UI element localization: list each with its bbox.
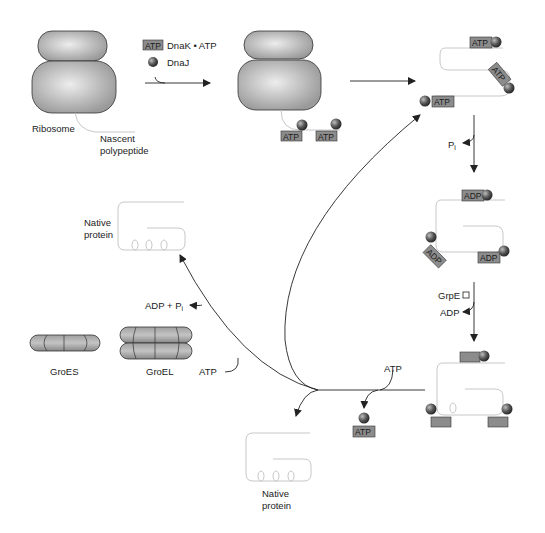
native-top-label-1: Native <box>84 217 111 228</box>
groel-label: GroEL <box>146 366 173 377</box>
grpe-square-icon <box>463 292 469 298</box>
ribosome-1 <box>32 31 135 132</box>
groes-label: GroES <box>50 366 79 377</box>
native-top-label-2: protein <box>84 229 113 240</box>
arrow-adp-release <box>463 302 474 312</box>
grpe-label: GrpE <box>438 290 460 301</box>
dnaj-sphere <box>331 119 342 130</box>
svg-text:ATP: ATP <box>434 97 450 107</box>
nascent-label-1: Nascent <box>100 133 135 144</box>
groes <box>30 335 100 351</box>
native-bottom-label-1: Native <box>262 488 289 499</box>
groel <box>120 327 192 359</box>
adp-release-label: ADP <box>440 307 460 318</box>
nascent-polypeptide <box>75 113 135 132</box>
native-protein-bottom <box>246 433 311 481</box>
legend: ATP DnaK • ATP DnaJ <box>143 40 217 68</box>
svg-text:ADP: ADP <box>464 191 482 201</box>
polypeptide-dnak-adp: ADP ADP ADP <box>423 190 510 269</box>
arrow-rebind-cycle <box>285 115 420 390</box>
polypeptide-dnak-empty <box>426 351 513 428</box>
pi-label: Pi <box>448 139 456 151</box>
ribosome-2: ATP ATP <box>238 31 342 142</box>
svg-text:ATP: ATP <box>472 38 488 48</box>
ribosome-label: Ribosome <box>32 123 75 134</box>
dnaj-sphere-icon <box>148 57 158 67</box>
polypeptide-dnak-atp: ATP ATP ATP <box>420 37 515 108</box>
svg-text:ATP: ATP <box>283 132 299 142</box>
arrow-adp-pi-release <box>190 305 202 306</box>
arrow-binding-input <box>155 77 165 83</box>
svg-text:ATP: ATP <box>145 41 161 51</box>
dnaj-label: DnaJ <box>167 57 189 68</box>
svg-text:ATP: ATP <box>318 132 334 142</box>
arrow-atp-bind <box>364 390 378 408</box>
nascent-label-2: polypeptide <box>100 145 149 156</box>
atp-groel-curve <box>225 358 238 372</box>
chaperone-diagram: Ribosome Nascent polypeptide ATP DnaK • … <box>0 0 545 533</box>
svg-text:ADP: ADP <box>480 253 498 263</box>
native-protein-top <box>118 202 185 250</box>
adp-pi-label: ADP + Pi <box>145 300 184 312</box>
atp-input-label: ATP <box>384 363 402 374</box>
arrow-pi-release <box>463 135 474 143</box>
dnaj-sphere <box>297 120 308 131</box>
arrow-native-bottom <box>296 390 318 416</box>
svg-text:ATP: ATP <box>355 427 371 437</box>
atp-groel-label: ATP <box>199 366 217 377</box>
native-bottom-label-2: protein <box>262 500 291 511</box>
dnak-atp-label: DnaK • ATP <box>167 40 217 51</box>
dnak-sphere <box>359 413 370 424</box>
